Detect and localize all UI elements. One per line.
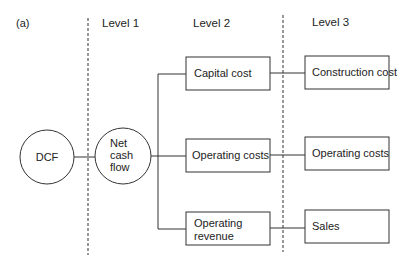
level-2-header: Level 2 bbox=[193, 17, 230, 29]
dcf-hierarchy-diagram: (a) Level 1 Level 2 Level 3 DCF Net cash… bbox=[0, 0, 405, 264]
net-cash-flow-label-line-2: cash bbox=[110, 149, 133, 161]
level-1-header: Level 1 bbox=[102, 17, 139, 29]
operating-revenue-label-line-1: Operating bbox=[194, 217, 242, 229]
sales-label: Sales bbox=[312, 220, 340, 232]
panel-label: (a) bbox=[16, 17, 29, 29]
capital-cost-label: Capital cost bbox=[194, 67, 251, 79]
dcf-label: DCF bbox=[36, 151, 59, 163]
net-cash-flow-label-line-1: Net bbox=[110, 137, 127, 149]
operating-revenue-label-line-2: revenue bbox=[194, 230, 234, 242]
operating-costs-l3-label: Operating costs bbox=[312, 147, 390, 159]
level-3-header: Level 3 bbox=[312, 16, 349, 28]
operating-costs-l2-label: Operating costs bbox=[192, 149, 270, 161]
construction-cost-label: Construction cost bbox=[312, 66, 397, 78]
net-cash-flow-label-line-3: flow bbox=[110, 161, 130, 173]
